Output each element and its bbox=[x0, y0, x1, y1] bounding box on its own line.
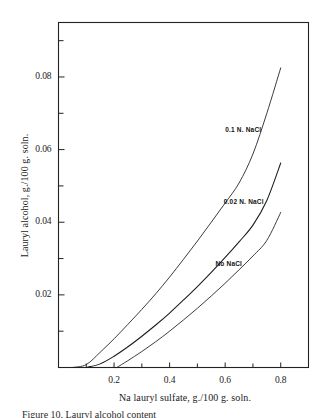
y-axis-title: Lauryl alcohol, g./100 g. soln. bbox=[19, 91, 30, 301]
x-tick-label: 0.4 bbox=[155, 375, 185, 385]
chart-plot-area bbox=[0, 0, 331, 418]
series-label: No NaCl bbox=[215, 260, 242, 267]
figure-container: 0.020.040.060.08 0.20.40.60.8 0.1 N. NaC… bbox=[0, 0, 331, 418]
y-tick-label: 0.08 bbox=[18, 71, 52, 81]
x-tick-label: 0.6 bbox=[210, 375, 240, 385]
x-tick-label: 0.2 bbox=[99, 375, 129, 385]
x-axis-title: Na lauryl sulfate, g./100 g. soln. bbox=[40, 392, 330, 403]
axes-frame bbox=[59, 23, 309, 368]
x-tick-label: 0.8 bbox=[266, 375, 296, 385]
series-label: 0.1 N. NaCl bbox=[225, 126, 261, 133]
figure-caption: Figure 10. Lauryl alcohol content bbox=[22, 409, 322, 418]
series-label: 0.02 N. NaCl bbox=[224, 198, 264, 205]
